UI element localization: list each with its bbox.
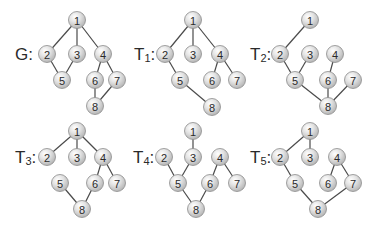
node-4: 4 — [95, 149, 112, 166]
node-1: 1 — [69, 123, 86, 140]
node-5: 5 — [172, 72, 189, 89]
node-label: 7 — [114, 75, 120, 87]
graph-g: G:12345678 — [15, 12, 126, 115]
node-3: 3 — [69, 149, 86, 166]
node-1: 1 — [185, 12, 202, 29]
graph-t2: T2:12345678 — [250, 12, 362, 115]
node-2: 2 — [39, 46, 56, 63]
node-label: 3 — [190, 152, 196, 164]
node-4: 4 — [327, 46, 344, 63]
node-label: 6 — [209, 75, 215, 87]
node-label: 7 — [350, 75, 356, 87]
node-label: 4 — [217, 152, 223, 164]
node-label: 8 — [92, 101, 98, 113]
node-5: 5 — [54, 72, 71, 89]
node-1: 1 — [302, 12, 319, 29]
node-label: 6 — [325, 178, 331, 190]
node-label: 7 — [350, 178, 356, 190]
node-label: 1 — [307, 126, 313, 138]
node-5: 5 — [170, 175, 187, 192]
node-label: 2 — [277, 152, 283, 164]
node-label: 1 — [190, 126, 196, 138]
node-label: 2 — [44, 152, 50, 164]
node-2: 2 — [39, 149, 56, 166]
node-7: 7 — [345, 72, 362, 89]
graph-t5: T5:12345678 — [250, 123, 362, 218]
node-8: 8 — [74, 201, 91, 218]
node-label: 1 — [74, 15, 80, 27]
graph-label: T4: — [133, 148, 154, 168]
node-label: 2 — [161, 152, 167, 164]
node-7: 7 — [345, 175, 362, 192]
node-3: 3 — [302, 149, 319, 166]
node-8: 8 — [204, 99, 221, 116]
node-3: 3 — [302, 46, 319, 63]
node-label: 5 — [292, 75, 298, 87]
node-3: 3 — [69, 46, 86, 63]
graph-label: G: — [15, 45, 33, 64]
node-label: 7 — [234, 75, 240, 87]
node-6: 6 — [87, 72, 104, 89]
node-1: 1 — [69, 12, 86, 29]
node-label: 2 — [44, 49, 50, 61]
node-label: 3 — [74, 152, 80, 164]
node-1: 1 — [302, 123, 319, 140]
node-label: 4 — [100, 152, 106, 164]
node-label: 3 — [74, 49, 80, 61]
node-6: 6 — [202, 175, 219, 192]
node-label: 5 — [177, 75, 183, 87]
node-8: 8 — [320, 98, 337, 115]
node-7: 7 — [229, 175, 246, 192]
graph-t1: T1:12345678 — [134, 12, 246, 116]
node-label: 5 — [57, 178, 63, 190]
node-3: 3 — [185, 46, 202, 63]
node-6: 6 — [87, 175, 104, 192]
graph-label: T2: — [250, 45, 271, 65]
node-6: 6 — [204, 72, 221, 89]
node-label: 5 — [59, 75, 65, 87]
node-label: 8 — [209, 102, 215, 114]
node-label: 7 — [114, 178, 120, 190]
node-label: 1 — [307, 15, 313, 27]
node-label: 6 — [92, 178, 98, 190]
node-6: 6 — [320, 175, 337, 192]
node-5: 5 — [52, 175, 69, 192]
node-4: 4 — [212, 46, 229, 63]
node-label: 8 — [79, 204, 85, 216]
node-label: 3 — [190, 49, 196, 61]
graphs-root: G:12345678T1:12345678T2:12345678T3:12345… — [15, 12, 362, 218]
graph-label: T1: — [134, 45, 155, 65]
node-1: 1 — [185, 123, 202, 140]
node-6: 6 — [320, 72, 337, 89]
node-3: 3 — [185, 149, 202, 166]
node-label: 3 — [307, 152, 313, 164]
node-label: 5 — [292, 178, 298, 190]
node-label: 5 — [175, 178, 181, 190]
graph-t3: T3:12345678 — [15, 123, 126, 218]
node-2: 2 — [156, 149, 173, 166]
node-label: 1 — [190, 15, 196, 27]
node-2: 2 — [272, 149, 289, 166]
node-label: 6 — [207, 178, 213, 190]
node-label: 3 — [307, 49, 313, 61]
node-label: 8 — [315, 204, 321, 216]
node-label: 4 — [334, 152, 340, 164]
node-8: 8 — [310, 201, 327, 218]
node-4: 4 — [329, 149, 346, 166]
graph-diagram: G:12345678T1:12345678T2:12345678T3:12345… — [0, 0, 377, 240]
node-8: 8 — [87, 98, 104, 115]
graph-label: T3: — [15, 148, 36, 168]
node-label: 2 — [277, 49, 283, 61]
node-label: 8 — [193, 204, 199, 216]
node-label: 4 — [100, 49, 106, 61]
node-label: 6 — [92, 75, 98, 87]
node-label: 6 — [325, 75, 331, 87]
node-7: 7 — [109, 175, 126, 192]
node-label: 4 — [217, 49, 223, 61]
node-label: 4 — [332, 49, 338, 61]
node-5: 5 — [287, 175, 304, 192]
node-8: 8 — [188, 201, 205, 218]
node-label: 8 — [325, 101, 331, 113]
node-label: 1 — [74, 126, 80, 138]
graph-t4: T4:12345678 — [133, 123, 246, 218]
